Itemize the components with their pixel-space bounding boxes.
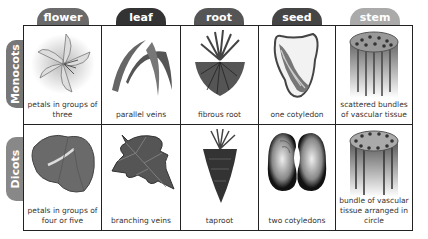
comparison-grid: petals in groups of three parallel veins… [23,25,413,231]
row-header-monocots: Monocots [6,40,24,108]
caption: scattered bundles of vascular tissue [338,100,410,120]
dicot-seed-icon [264,129,330,195]
column-header-root: root [194,8,244,26]
cell-dicot-stem: bundle of vascular tissue arranged in ci… [336,125,412,230]
row-header-dicots: Dicots [6,137,24,201]
column-header-leaf: leaf [116,8,166,26]
monocot-seed-icon [267,30,327,100]
fibrous-root-icon [187,30,253,100]
caption: two cotyledons [261,216,333,226]
lily-flower-icon [28,30,98,98]
cell-monocot-leaf: parallel veins [102,26,181,125]
caption: bundle of vascular tissue arranged in ci… [338,196,410,226]
parallel-vein-leaf-icon [106,30,176,98]
cell-monocot-flower: petals in groups of three [24,26,102,125]
caption: fibrous root [183,110,256,120]
caption: taproot [183,216,256,226]
cell-dicot-root: taproot [181,125,259,230]
column-header-stem: stem [350,8,400,26]
caption: petals in groups of three [26,100,99,120]
cell-dicot-seed: two cotyledons [259,125,336,230]
cell-dicot-leaf: branching veins [102,125,181,230]
cell-monocot-stem: scattered bundles of vascular tissue [336,26,412,125]
column-header-seed: seed [272,8,322,26]
taproot-icon [195,129,245,205]
hibiscus-flower-icon [28,129,98,195]
caption: one cotyledon [261,110,333,120]
caption: branching veins [104,216,178,226]
cell-monocot-root: fibrous root [181,26,259,125]
caption: petals in groups of four or five [26,206,99,226]
branching-vein-leaf-icon [106,129,176,195]
cell-monocot-seed: one cotyledon [259,26,336,125]
cell-dicot-flower: petals in groups of four or five [24,125,102,230]
caption: parallel veins [104,110,178,120]
ringed-vascular-stem-icon [344,129,404,197]
scattered-vascular-stem-icon [344,30,404,98]
column-header-flower: flower [37,8,89,26]
